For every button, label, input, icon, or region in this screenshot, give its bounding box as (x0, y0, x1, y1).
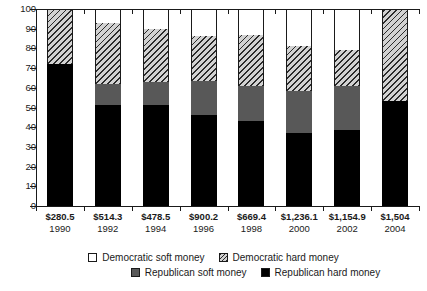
x-tick-top-8 (419, 9, 420, 14)
bar-segment-1992-rep-soft (95, 84, 121, 105)
legend-item-republican-hard-money: Republican hard money (261, 265, 381, 280)
x-tick-top-1 (84, 9, 85, 14)
bar-segment-1994-rep-hard (143, 105, 169, 206)
bars-layer (36, 9, 419, 206)
bar-segment-1998-dem-hard (238, 35, 264, 86)
x-axis-label-amount-1994: $478.5 (141, 211, 170, 222)
legend-swatch-republican-hard-money (261, 268, 270, 277)
bar-segment-1994-rep-soft (143, 82, 169, 105)
chart-legend: Democratic soft money Democratic hard mo… (0, 250, 427, 280)
x-tick-top-2 (132, 9, 133, 14)
legend-label-democratic-hard-money: Democratic hard money (233, 250, 339, 265)
bar-segment-2000-rep-hard (286, 133, 312, 206)
bar-segment-1990-rep-hard (47, 64, 73, 206)
bar-segment-2000-rep-soft (286, 91, 312, 133)
bar-segment-1998-rep-soft (238, 86, 264, 121)
bar-segment-1992-dem-soft (95, 9, 121, 23)
bar-1990 (47, 9, 73, 206)
x-axis-label-amount-2002: $1,154.9 (329, 211, 366, 222)
legend-label-republican-soft-money: Republican soft money (145, 265, 247, 280)
legend-swatch-democratic-hard-money (219, 253, 228, 262)
x-tick-top-4 (228, 9, 229, 14)
x-tick-top-6 (323, 9, 324, 14)
x-tick-top-3 (180, 9, 181, 14)
legend-item-republican-soft-money: Republican soft money (131, 265, 247, 280)
legend-swatch-democratic-soft-money (88, 253, 97, 262)
bar-2000 (286, 9, 312, 206)
bar-segment-2002-dem-hard (334, 50, 360, 85)
bar-segment-1992-rep-hard (95, 105, 121, 206)
bar-segment-2002-dem-soft (334, 9, 360, 50)
x-axis-label-amount-2000: $1,236.1 (281, 211, 318, 222)
bar-segment-1996-dem-hard (191, 36, 217, 81)
bar-segment-1994-dem-hard (143, 29, 169, 82)
y-axis: 0102030405060708090100 (0, 0, 36, 291)
bar-segment-1998-dem-soft (238, 9, 264, 35)
legend-item-democratic-hard-money: Democratic hard money (219, 250, 339, 265)
legend-item-democratic-soft-money: Democratic soft money (88, 250, 204, 265)
x-axis-label-amount-1990: $280.5 (45, 211, 74, 222)
x-axis-label-amount-1998: $669.4 (237, 211, 266, 222)
x-axis-label-amount-2004: $1,504 (381, 211, 410, 222)
bar-segment-2002-rep-hard (334, 130, 360, 206)
bar-segment-1994-dem-soft (143, 9, 169, 29)
x-axis-label-2004: $1,5042004 (364, 211, 426, 234)
bar-1994 (143, 9, 169, 206)
stacked-bar-chart: 0102030405060708090100 $280.51990$514.31… (0, 0, 427, 291)
bar-segment-2004-dem-hard (382, 9, 408, 101)
x-axis-label-amount-1992: $514.3 (93, 211, 122, 222)
bar-2002 (334, 9, 360, 206)
x-tick-top-0 (36, 9, 37, 14)
bar-1998 (238, 9, 264, 206)
x-axis-label-year-2004: 2004 (364, 223, 426, 235)
x-tick-top-7 (371, 9, 372, 14)
bar-2004 (382, 9, 408, 206)
bar-segment-2002-rep-soft (334, 86, 360, 130)
bar-segment-1998-rep-hard (238, 121, 264, 206)
bar-segment-1996-rep-soft (191, 81, 217, 115)
legend-label-republican-hard-money: Republican hard money (275, 265, 381, 280)
legend-swatch-republican-soft-money (131, 268, 140, 277)
bar-segment-2004-rep-hard (382, 101, 408, 206)
bar-1996 (191, 9, 217, 206)
bar-segment-2000-dem-hard (286, 46, 312, 90)
bar-segment-1996-dem-soft (191, 9, 217, 36)
bar-segment-1992-dem-hard (95, 23, 121, 84)
legend-label-democratic-soft-money: Democratic soft money (102, 250, 204, 265)
bar-segment-2000-dem-soft (286, 9, 312, 46)
bar-segment-1990-dem-hard (47, 9, 73, 64)
x-axis-label-amount-1996: $900.2 (189, 211, 218, 222)
bar-segment-1996-rep-hard (191, 115, 217, 206)
x-tick-top-5 (275, 9, 276, 14)
bar-1992 (95, 9, 121, 206)
